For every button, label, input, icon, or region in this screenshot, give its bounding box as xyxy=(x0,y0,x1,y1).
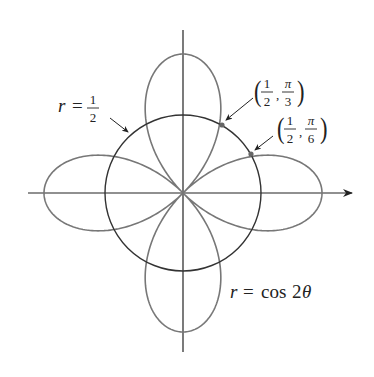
svg-text:): ) xyxy=(297,74,304,108)
arrow-pi-over-6 xyxy=(255,136,273,150)
arrow-pi-over-3 xyxy=(226,98,253,120)
svg-text:1: 1 xyxy=(287,113,294,128)
svg-text:(: ( xyxy=(277,111,284,145)
point-label-pi-over-6: ( 1 2 , π 6 ) xyxy=(277,111,327,146)
rose-label: r = cos 2 θ xyxy=(230,281,311,302)
svg-text:,: , xyxy=(276,87,279,102)
svg-text:π: π xyxy=(308,113,315,128)
circle-label: r = 1 2 xyxy=(58,92,99,125)
svg-text:π: π xyxy=(285,76,292,91)
svg-text:θ: θ xyxy=(302,281,311,302)
svg-text:=: = xyxy=(243,281,254,302)
arrow-circle-label xyxy=(110,118,128,132)
svg-text:2: 2 xyxy=(292,281,302,302)
svg-text:1: 1 xyxy=(264,76,271,91)
svg-text:6: 6 xyxy=(308,131,315,146)
svg-text:2: 2 xyxy=(287,131,294,146)
svg-text:,: , xyxy=(299,124,302,139)
svg-text:): ) xyxy=(320,111,327,145)
svg-text:=: = xyxy=(72,95,83,116)
svg-text:(: ( xyxy=(254,74,261,108)
svg-text:3: 3 xyxy=(285,94,292,109)
svg-text:r: r xyxy=(58,95,66,116)
point-pi-over-6 xyxy=(248,151,253,156)
svg-text:1: 1 xyxy=(90,92,97,107)
svg-text:2: 2 xyxy=(264,94,271,109)
polar-diagram: r = 1 2 ( 1 2 , π 3 ) ( 1 2 , π 6 ) r = … xyxy=(0,0,374,377)
point-label-pi-over-3: ( 1 2 , π 3 ) xyxy=(254,74,304,109)
point-pi-over-3 xyxy=(219,122,224,127)
svg-text:2: 2 xyxy=(90,110,97,125)
svg-text:cos: cos xyxy=(261,281,286,302)
svg-text:r: r xyxy=(230,281,238,302)
